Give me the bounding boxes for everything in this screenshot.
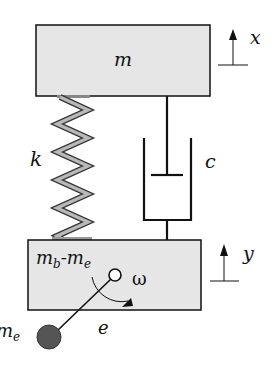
y-displacement-arrow: y: [210, 242, 254, 281]
eccentricity-label: e: [98, 317, 109, 338]
arrow-up-icon: [229, 29, 237, 40]
top-mass-label: m: [114, 48, 132, 70]
damper-label: c: [205, 150, 216, 172]
eccentric-mass-label: me: [0, 320, 20, 344]
y-label: y: [242, 242, 254, 264]
damper: [144, 96, 191, 240]
base-mass-label: mb-me: [36, 247, 91, 271]
x-label: x: [250, 26, 261, 48]
spring-label: k: [30, 147, 42, 171]
top-mass: m: [36, 25, 210, 96]
diagram-canvas: m x k c mb-me ω y: [0, 0, 279, 370]
base-mass: mb-me ω: [28, 240, 201, 310]
x-displacement-arrow: x: [218, 26, 261, 65]
omega-label: ω: [132, 268, 147, 289]
arrow-up-icon: [220, 244, 228, 256]
spring: k: [30, 95, 92, 241]
